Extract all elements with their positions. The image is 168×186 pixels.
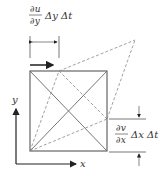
y-axis-label: y <box>11 94 18 105</box>
right-displacement-label: ∂v ∂x Δx Δt <box>115 123 159 145</box>
right-suffix: Δx Δt <box>130 129 159 140</box>
top-suffix: Δy Δt <box>44 10 73 21</box>
right-numerator: ∂v <box>116 123 126 133</box>
top-displacement-label: ∂u ∂y Δy Δt <box>29 4 73 26</box>
top-numerator: ∂u <box>30 4 41 14</box>
shear-deformation-diagram: ∂u ∂y Δy Δt ∂v ∂x Δx Δt y x <box>0 0 168 186</box>
x-axis-label: x <box>80 158 86 169</box>
top-denominator: ∂y <box>30 16 41 26</box>
right-denominator: ∂x <box>116 135 126 145</box>
